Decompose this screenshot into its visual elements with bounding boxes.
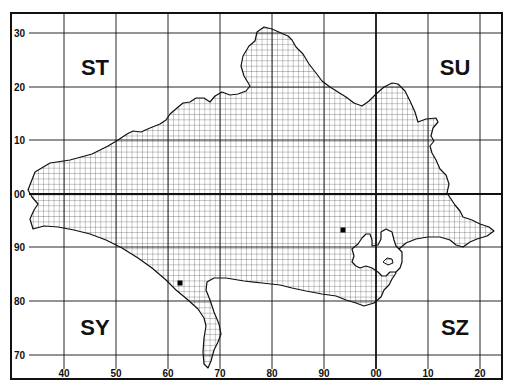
grid-square-st: ST (81, 55, 110, 80)
easting-label: 70 (214, 368, 226, 379)
record-2-marker (341, 228, 346, 233)
northing-label: 80 (14, 296, 26, 307)
easting-label: 40 (58, 368, 70, 379)
northing-label: 30 (14, 28, 26, 39)
easting-label: 00 (370, 368, 382, 379)
grid-square-sz: SZ (441, 315, 469, 340)
easting-label: 60 (162, 368, 174, 379)
record-1-marker (178, 281, 183, 286)
easting-label: 90 (318, 368, 330, 379)
easting-label: 80 (266, 368, 278, 379)
northing-label: 10 (14, 135, 26, 146)
easting-label: 20 (474, 368, 486, 379)
northing-label: 00 (14, 189, 26, 200)
easting-label: 50 (110, 368, 122, 379)
northing-label: 90 (14, 242, 26, 253)
grid-square-sy: SY (80, 315, 110, 340)
grid-square-su: SU (440, 55, 471, 80)
northing-label: 70 (14, 350, 26, 361)
distribution-map: 405060708090001020 30201000908070 STSUSY… (0, 0, 515, 390)
northing-label: 20 (14, 82, 26, 93)
easting-label: 10 (422, 368, 434, 379)
